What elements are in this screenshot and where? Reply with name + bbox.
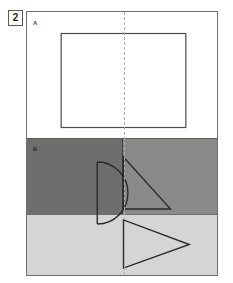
figure-number-badge: 2 bbox=[8, 10, 23, 26]
panel-b: B bbox=[27, 138, 217, 214]
panel-a-drawing bbox=[27, 12, 217, 138]
figure-root: 2 A B bbox=[0, 0, 233, 283]
panel-b-drawing bbox=[27, 138, 217, 214]
panel-c bbox=[27, 214, 217, 275]
figure-sheet: A B bbox=[26, 11, 218, 276]
panel-a: A bbox=[27, 12, 217, 138]
right-triangle-shape bbox=[123, 157, 170, 209]
panel-c-drawing bbox=[27, 215, 217, 275]
rightward-triangle-shape bbox=[123, 220, 189, 268]
rectangle-shape bbox=[61, 34, 186, 128]
